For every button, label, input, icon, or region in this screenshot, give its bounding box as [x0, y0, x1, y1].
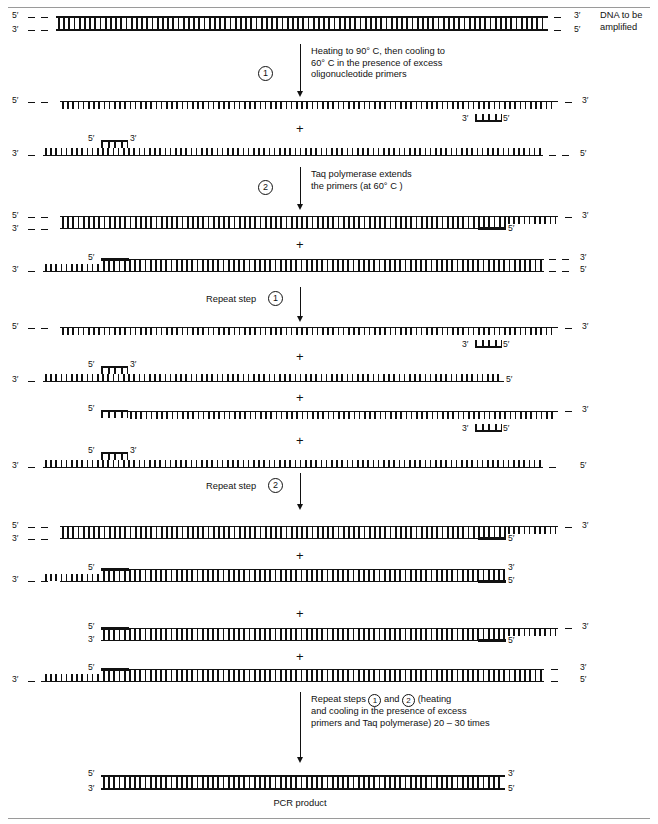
step-arrow-head	[297, 204, 303, 210]
plus-sign: +	[296, 607, 304, 620]
strand-dash	[28, 681, 35, 682]
primer-oligo	[101, 366, 128, 374]
base-pair-rungs	[103, 777, 503, 788]
base-ticks	[62, 328, 556, 335]
plus-sign: +	[296, 350, 304, 363]
strand-dash	[28, 155, 35, 156]
primer-end-label-5prime: 5′	[503, 424, 509, 433]
strand-dash	[41, 30, 48, 31]
strand-backbone	[43, 681, 544, 682]
base-ticks	[508, 217, 556, 224]
end-label-3prime: 3′	[580, 253, 586, 262]
strand-dash	[28, 17, 35, 18]
end-label-3prime: 3′	[12, 265, 18, 274]
end-label-3prime: 3′	[88, 784, 94, 793]
base-ticks	[45, 374, 501, 381]
strand-dash	[562, 259, 569, 260]
end-label-5prime: 5′	[88, 253, 94, 262]
strand-dash	[41, 328, 48, 329]
base-pair-rungs	[103, 570, 505, 581]
end-label-3prime: 3′	[582, 211, 588, 220]
strand-backbone	[60, 538, 506, 539]
primer-bar	[478, 537, 506, 540]
end-label-3prime: 3′	[12, 534, 18, 543]
strand-dash	[28, 271, 35, 272]
pcr-diagram: 5′ 3′ 3′ 5′ DNA to be amplified 1 Heatin…	[0, 0, 658, 824]
strand-dash	[41, 229, 48, 230]
base-ticks	[508, 629, 556, 636]
end-label-5prime: 5′	[88, 663, 94, 672]
strand-dash	[28, 581, 35, 582]
end-label-5prime: 5′	[580, 149, 586, 158]
strand-dash	[565, 628, 572, 629]
end-label-5prime: 5′	[88, 769, 94, 778]
end-label-3prime: 3′	[582, 405, 588, 414]
end-label-5prime: 5′	[508, 636, 514, 645]
end-label-5prime: 5′	[580, 461, 586, 470]
repeat-steps-part3: (heating	[418, 694, 452, 704]
end-label-3prime: 3′	[508, 563, 514, 572]
primer-bar	[478, 227, 506, 230]
strand-backbone-bottom	[101, 788, 505, 790]
step-number-circle: 2	[258, 180, 273, 195]
primer-end-label-5prime: 5′	[88, 446, 94, 455]
strand-dash	[28, 328, 35, 329]
strand-dash	[562, 271, 569, 272]
primer-bar	[475, 346, 502, 348]
strand-dash	[565, 411, 572, 412]
primer-oligo	[475, 114, 502, 122]
base-pair-rungs	[62, 217, 506, 228]
end-label-5prime: 5′	[508, 576, 514, 585]
primer-end-label-5prime: 5′	[88, 404, 94, 413]
plus-sign: +	[296, 238, 304, 251]
step-connector-line	[300, 287, 301, 317]
step-arrow-head	[297, 757, 303, 763]
primer-end-label-3prime: 3′	[462, 340, 468, 349]
primer-end-label-3prime: 3′	[130, 446, 136, 455]
strand-dash	[41, 102, 48, 103]
step-arrow-head	[297, 504, 303, 510]
end-label-5prime: 5′	[506, 375, 512, 384]
strand-backbone	[60, 581, 478, 582]
end-label-3prime: 3′	[12, 575, 18, 584]
strand-dash	[551, 669, 558, 670]
strand-dash	[28, 30, 35, 31]
end-label-3prime: 3′	[582, 622, 588, 631]
base-ticks	[45, 574, 101, 581]
end-label-3prime: 3′	[12, 149, 18, 158]
strand-backbone	[43, 155, 543, 156]
strand-dash	[551, 681, 558, 682]
step-connector-line	[300, 44, 301, 92]
end-label-5prime: 5′	[580, 265, 586, 274]
primer-teeth	[101, 412, 128, 418]
strand-dash	[28, 102, 35, 103]
step-number-circle: 2	[268, 478, 283, 493]
end-label-5prime: 5′	[12, 521, 18, 530]
primer-end-label-5prime: 5′	[88, 360, 94, 369]
strand-dash	[41, 539, 48, 540]
primer-end-label-5prime: 5′	[88, 134, 94, 143]
step-number-circle: 1	[258, 66, 273, 81]
strand-dash	[28, 539, 35, 540]
end-label-5prime: 5′	[12, 322, 18, 331]
end-label-5prime: 5′	[12, 96, 18, 105]
primer-bar	[475, 120, 502, 122]
strand-dash	[41, 217, 48, 218]
end-label-3prime: 3′	[582, 322, 588, 331]
base-ticks	[45, 674, 101, 681]
end-label-3prime: 3′	[582, 96, 588, 105]
end-label-5prime: 5′	[574, 25, 580, 34]
strand-dash	[549, 271, 556, 272]
top-divider-rule	[8, 7, 650, 8]
strand-dash	[565, 102, 572, 103]
end-label-3prime: 3′	[12, 461, 18, 470]
primer-oligo	[475, 340, 502, 348]
end-label-3prime: 3′	[582, 521, 588, 530]
base-ticks	[45, 460, 541, 467]
end-label-3prime: 3′	[12, 375, 18, 384]
repeat-steps-part2: and	[384, 694, 400, 704]
base-pair-rungs	[103, 670, 544, 681]
strand-dash	[28, 467, 35, 468]
primer-oligo	[101, 140, 128, 148]
primer-end-label-5prime: 5′	[503, 114, 509, 123]
